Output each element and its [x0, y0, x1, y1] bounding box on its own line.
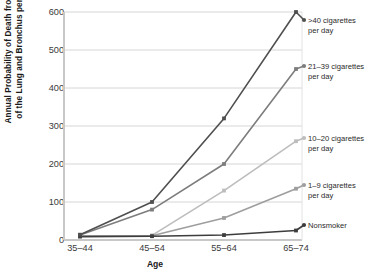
data-point-3-2: [222, 216, 226, 220]
legend-label-line2-1: per day: [308, 72, 364, 82]
legend-label-line1-0: >40 cigarettes: [308, 16, 356, 25]
data-point-0-2: [222, 117, 226, 121]
x-axis-tick-labels: 35–4445–5455–6465–74: [0, 243, 376, 259]
data-point-1-1: [150, 208, 154, 212]
lung-cancer-mortality-chart: Annual Probability of Death from Cancer …: [0, 0, 376, 275]
legend-marker-3: [302, 183, 306, 187]
x-axis-title: Age: [0, 259, 310, 269]
legend-item-2: 10–20 cigarettesper day: [308, 134, 364, 153]
x-tick-2: 55–64: [211, 243, 237, 253]
data-point-1-2: [222, 162, 226, 166]
legend-marker-2: [302, 136, 306, 140]
legend-label-line1-3: 1–9 cigarettes: [308, 181, 356, 190]
legend-marker-0: [302, 18, 306, 22]
legend-item-0: >40 cigarettesper day: [308, 16, 356, 35]
legend-item-3: 1–9 cigarettesper day: [308, 181, 356, 200]
data-point-4-2: [222, 233, 226, 237]
data-point-2-2: [222, 189, 226, 193]
data-point-0-1: [150, 200, 154, 204]
x-tick-0: 35–44: [67, 243, 93, 253]
data-point-0-0: [78, 233, 82, 237]
x-tick-1: 45–54: [139, 243, 165, 253]
legend-label-line2-0: per day: [308, 26, 356, 36]
data-point-4-1: [150, 234, 154, 238]
series-line-2: [80, 141, 296, 236]
legend-label-line1-4: Nonsmoker: [308, 221, 347, 230]
legend-item-4: Nonsmoker: [308, 221, 347, 231]
legend-label-line2-2: per day: [308, 144, 364, 154]
legend-item-1: 21–39 cigarettesper day: [308, 62, 364, 81]
x-tick-3: 65–74: [283, 243, 309, 253]
legend-marker-1: [302, 64, 306, 68]
series-line-4: [80, 231, 296, 237]
legend-marker-4: [302, 223, 306, 227]
legend-label-line1-2: 10–20 cigarettes: [308, 134, 364, 143]
legend-label-line1-1: 21–39 cigarettes: [308, 62, 364, 71]
legend-label-line2-3: per day: [308, 191, 356, 201]
series-line-1: [80, 69, 296, 235]
